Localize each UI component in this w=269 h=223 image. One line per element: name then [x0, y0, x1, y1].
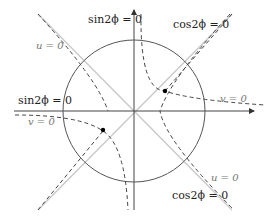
label-sin-top: sin2ϕ = 0	[88, 14, 142, 25]
point-upper-right	[163, 89, 167, 93]
label-u-top-left: u = 0	[36, 41, 64, 51]
label-u-bottom-right: u = 0	[211, 173, 239, 183]
curve-v-lower	[15, 115, 128, 210]
diagram-canvas	[0, 0, 269, 223]
point-lower-left	[101, 128, 105, 132]
diagram: sin2ϕ = 0 cos2ϕ = 0 u = 0 v = 0 sin2ϕ = …	[0, 0, 269, 223]
label-v-right: v = 0	[220, 94, 247, 104]
label-v-left: v = 0	[28, 117, 55, 127]
label-cos-bottom-right: cos2ϕ = 0	[172, 190, 228, 201]
label-sin-left: sin2ϕ = 0	[18, 95, 72, 106]
label-cos-top-right: cos2ϕ = 0	[173, 19, 229, 30]
